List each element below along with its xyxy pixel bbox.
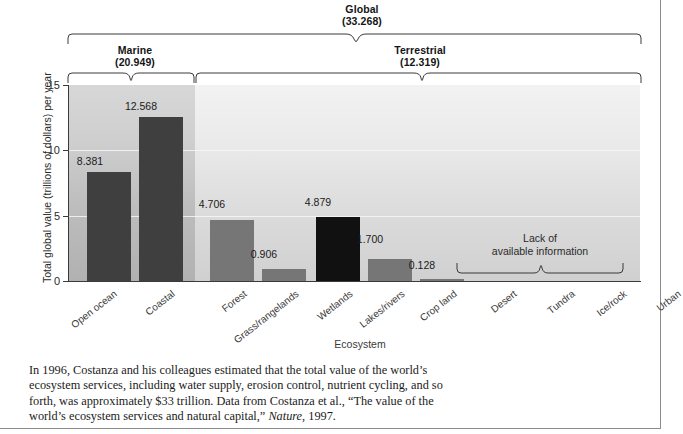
group-label-terrestrial-name: Terrestrial [340, 44, 500, 56]
bar-wetlands[interactable] [316, 217, 360, 281]
caption-part1: In 1996, Costanza and his colleagues est… [29, 363, 443, 423]
no-data-note-line2: available information [455, 245, 625, 258]
brace-marine [67, 72, 195, 84]
bar-value-crop-land: 0.128 [394, 259, 450, 271]
caption-part2: , 1997. [302, 409, 336, 423]
group-label-terrestrial-value: (12.319) [340, 56, 500, 68]
brace-terrestrial [195, 72, 642, 84]
figure-caption: In 1996, Costanza and his colleagues est… [29, 363, 449, 425]
page-frame-bottom [0, 428, 661, 429]
page-frame-right [660, 0, 661, 429]
y-tick-label-5: 5 [32, 210, 60, 222]
group-label-global: Global (33.268) [282, 3, 442, 27]
group-label-marine-value: (20.949) [75, 56, 195, 68]
group-label-global-value: (33.268) [282, 15, 442, 27]
x-label-urban: Urban [629, 288, 683, 334]
bar-open-ocean[interactable] [87, 172, 131, 282]
group-label-global-name: Global [282, 3, 442, 15]
x-label-open-ocean: Open ocean [57, 288, 119, 340]
x-label-coastal: Coastal [115, 288, 177, 340]
group-label-marine: Marine (20.949) [75, 44, 195, 68]
bar-value-coastal: 12.568 [112, 100, 170, 112]
bar-value-open-ocean: 8.381 [62, 155, 118, 167]
group-label-terrestrial: Terrestrial (12.319) [340, 44, 500, 68]
y-axis-label: Total global value (trillions of dollars… [41, 72, 53, 283]
bar-value-forest: 4.706 [184, 198, 240, 210]
brace-no-data [456, 262, 624, 274]
y-tick-label-0: 0 [32, 275, 60, 287]
x-axis-label: Ecosystem [310, 338, 410, 350]
x-label-ice-rock: Ice/rock [575, 288, 629, 334]
bar-value-wetlands: 4.879 [290, 196, 346, 208]
x-label-tundra: Tundra [523, 288, 577, 334]
x-axis-line [68, 281, 641, 282]
y-tick-label-10: 10 [32, 144, 60, 156]
y-axis-line [68, 85, 69, 282]
y-tick-label-15: 15 [32, 79, 60, 91]
x-label-desert: Desert [465, 288, 519, 334]
caption-journal: Nature [268, 409, 302, 423]
no-data-note-line1: Lack of [455, 232, 625, 245]
no-data-note: Lack of available information [455, 232, 625, 257]
bar-value-grass-rangelands: 0.906 [236, 248, 292, 260]
bar-grass-rangelands[interactable] [262, 269, 306, 281]
bar-coastal[interactable] [139, 117, 183, 281]
group-label-marine-name: Marine [75, 44, 195, 56]
bar-value-lakes-rivers: 1.700 [342, 233, 398, 245]
